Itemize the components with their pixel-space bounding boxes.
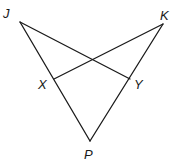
label-point-x: X (37, 77, 48, 92)
label-point-p: P (84, 147, 93, 162)
label-point-j: J (2, 6, 10, 21)
label-point-y: Y (134, 77, 144, 92)
segment-kx (54, 24, 163, 79)
geometry-diagram: J K X Y P (0, 0, 175, 168)
segment-kp (90, 24, 163, 141)
label-point-k: K (160, 8, 170, 23)
